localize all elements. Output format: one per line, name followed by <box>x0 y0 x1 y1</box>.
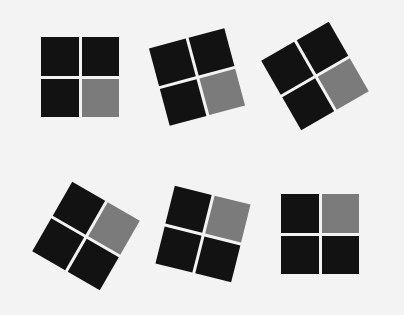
dark-tile-top-left <box>41 37 79 76</box>
gray-tile-top-right <box>322 194 360 233</box>
dark-tile-bottom-left <box>281 236 319 275</box>
dark-tile-top-left <box>281 194 319 233</box>
dark-tile-top-right <box>82 37 120 76</box>
square-grid-figure-1 <box>41 37 119 117</box>
dark-tile-top-left <box>166 186 212 232</box>
diagram-canvas <box>0 0 404 315</box>
dark-tile-bottom-left <box>41 79 79 118</box>
gray-tile-bottom-right <box>82 79 120 118</box>
square-grid-figure-6 <box>281 194 359 274</box>
dark-tile-bottom-right <box>322 236 360 275</box>
